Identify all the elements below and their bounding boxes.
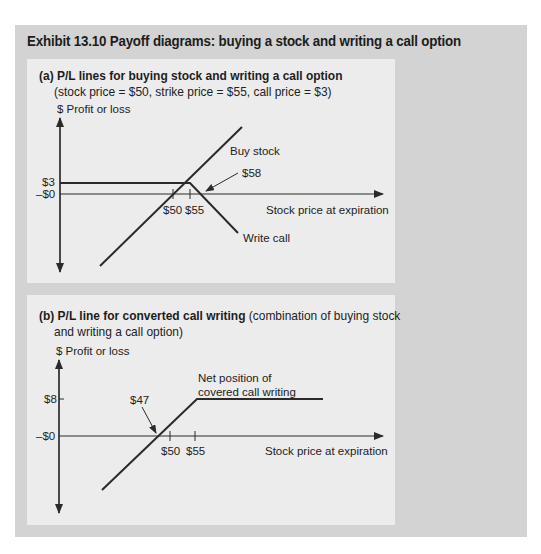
chart-b-xtick-label-55: $55 <box>186 445 205 457</box>
chart-b-x-label: Stock price at expiration <box>265 445 388 457</box>
chart-a-xtick-label-55: $55 <box>185 204 204 216</box>
chart-a-x-label: Stock price at expiration <box>266 204 389 216</box>
buy-stock-line <box>100 127 242 266</box>
chart-a-xtick-label-50: $50 <box>163 204 182 216</box>
net-position-label-2: covered call writing <box>198 386 296 398</box>
chart-a: $ Profit or loss $3 –$0 $50 $55 Stock pr… <box>36 103 389 272</box>
chart-b-xtick-label-50: $50 <box>161 445 180 457</box>
net-position-label-1: Net position of <box>198 372 272 384</box>
breakeven-58-label: $58 <box>242 167 261 179</box>
write-call-label: Write call <box>243 232 290 244</box>
breakeven-58-arrow <box>206 173 238 191</box>
breakeven-47-label: $47 <box>130 394 149 406</box>
write-call-line <box>60 183 238 233</box>
chart-b: $ Profit or loss $8 –$0 $50 $55 Stock pr… <box>36 345 388 513</box>
chart-a-ytick-3: $3 <box>42 176 55 188</box>
chart-b-ytick-0: –$0 <box>36 430 55 442</box>
chart-b-ytick-8: $8 <box>44 393 57 405</box>
chart-b-y-label: $ Profit or loss <box>56 345 130 357</box>
breakeven-47-arrow <box>142 407 156 433</box>
buy-stock-label: Buy stock <box>230 145 280 157</box>
payoff-charts: $ Profit or loss $3 –$0 $50 $55 Stock pr… <box>0 0 541 554</box>
chart-a-y-label: $ Profit or loss <box>57 103 131 115</box>
chart-a-ytick-0: –$0 <box>36 188 55 200</box>
